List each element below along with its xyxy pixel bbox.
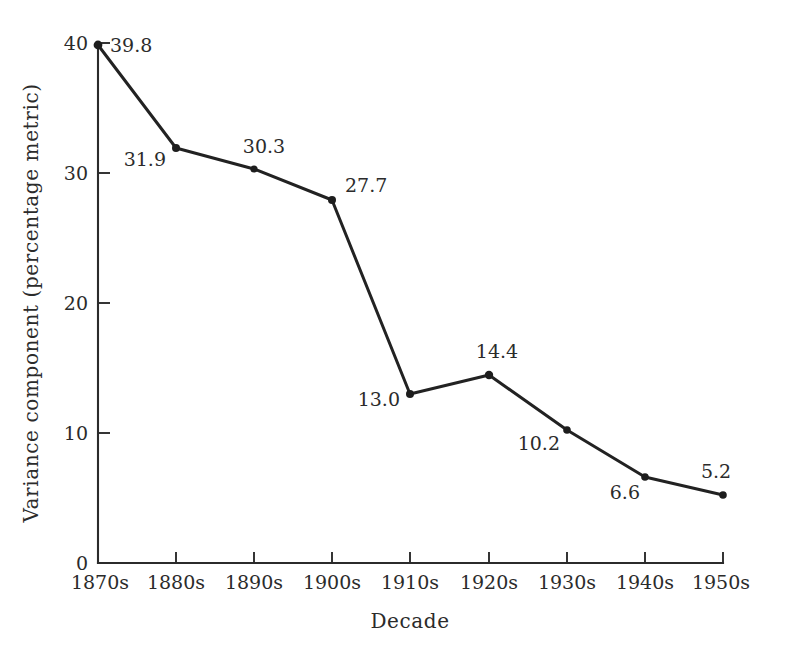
data-label-1890s: 30.3	[243, 135, 285, 157]
y-tick-label-30: 30	[64, 162, 88, 184]
x-tick-label-1880s: 1880s	[147, 571, 205, 593]
data-series-line	[98, 45, 723, 495]
data-point-1900s	[328, 196, 336, 204]
y-tick-labels: 0 10 20 30 40	[64, 32, 88, 574]
x-tick-label-1910s: 1910s	[381, 571, 439, 593]
data-point-1920s	[485, 371, 493, 379]
data-point-1950s	[719, 491, 727, 499]
data-label-1900s: 27.7	[345, 174, 387, 196]
data-label-1870s: 39.8	[110, 34, 152, 56]
y-axis-ticks	[98, 43, 110, 433]
y-tick-label-40: 40	[64, 32, 88, 54]
data-label-1920s: 14.4	[476, 340, 518, 362]
x-axis-title: Decade	[370, 609, 449, 633]
x-tick-label-1900s: 1900s	[303, 571, 361, 593]
data-label-1880s: 31.9	[124, 148, 166, 170]
x-tick-label-1870s: 1870s	[71, 571, 129, 593]
y-tick-label-20: 20	[64, 292, 88, 314]
x-tick-labels: 1870s 1880s 1890s 1900s 1910s 1920s 1930…	[71, 571, 750, 593]
x-axis-ticks	[176, 552, 723, 563]
y-tick-label-10: 10	[64, 422, 88, 444]
data-point-1910s	[406, 390, 414, 398]
chart-container: 0 10 20 30 40 1870s 1880s 1890s 1900s 19…	[0, 0, 787, 651]
data-label-1930s: 10.2	[518, 432, 560, 454]
data-point-1930s	[563, 426, 571, 434]
x-tick-label-1920s: 1920s	[460, 571, 518, 593]
x-tick-label-1940s: 1940s	[616, 571, 674, 593]
data-point-1890s	[250, 165, 257, 172]
x-tick-label-1930s: 1930s	[538, 571, 596, 593]
y-axis-title: Variance component (percentage metric)	[19, 83, 43, 523]
data-point-labels: 39.8 31.9 30.3 27.7 13.0 14.4 10.2 6.6 5…	[110, 34, 731, 503]
data-point-1940s	[641, 473, 649, 481]
line-chart: 0 10 20 30 40 1870s 1880s 1890s 1900s 19…	[0, 0, 787, 651]
data-point-markers	[94, 41, 727, 499]
data-label-1940s: 6.6	[610, 481, 640, 503]
data-label-1910s: 13.0	[358, 388, 400, 410]
data-label-1950s: 5.2	[701, 460, 731, 482]
x-tick-label-1890s: 1890s	[225, 571, 283, 593]
data-point-1880s	[172, 144, 180, 152]
data-point-1870s	[94, 41, 103, 50]
x-tick-label-1950s: 1950s	[692, 571, 750, 593]
